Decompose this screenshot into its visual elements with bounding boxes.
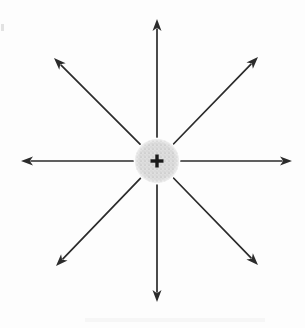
field-arrow-up — [153, 19, 162, 137]
point-charge — [135, 139, 179, 183]
field-arrow-upper-right-shaft — [174, 64, 251, 144]
field-arrow-left — [21, 157, 133, 166]
field-arrow-upper-right — [174, 57, 258, 144]
field-arrow-upper-left — [54, 58, 140, 144]
field-arrow-down — [153, 185, 162, 302]
field-arrow-right — [181, 157, 292, 166]
field-arrow-upper-left-shaft — [61, 65, 140, 144]
field-arrow-lower-left — [56, 178, 140, 266]
field-arrow-lower-left-shaft — [63, 178, 140, 258]
field-diagram-canvas — [0, 0, 305, 328]
field-arrow-lower-right — [174, 178, 258, 265]
field-arrow-lower-right-shaft — [174, 178, 251, 258]
electric-field-figure — [0, 0, 305, 328]
